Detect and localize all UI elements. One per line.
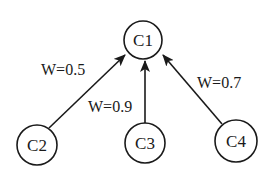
node-c3: C3 <box>125 123 165 163</box>
node-c2: C2 <box>17 125 57 165</box>
weighted-graph-diagram: W=0.5 W=0.9 W=0.7 C1 C2 C3 C4 <box>0 0 272 172</box>
node-label-c2: C2 <box>27 136 47 155</box>
node-c1: C1 <box>124 21 162 59</box>
edge-weight-label-c3-c1: W=0.9 <box>88 98 132 115</box>
edge-weight-label-c4-c1: W=0.7 <box>197 74 241 91</box>
edge-weight-label-c2-c1: W=0.5 <box>41 61 85 78</box>
node-label-c1: C1 <box>133 31 153 50</box>
node-label-c3: C3 <box>135 134 155 153</box>
node-label-c4: C4 <box>226 132 246 151</box>
node-c4: C4 <box>215 120 257 162</box>
